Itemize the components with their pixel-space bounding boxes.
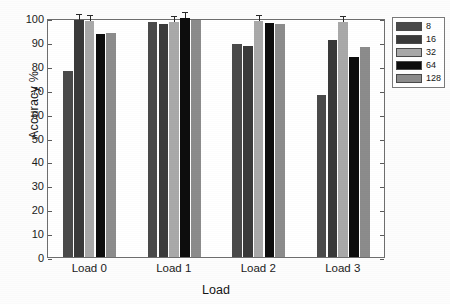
y-tick-mark (48, 187, 52, 188)
y-tick-label: 70 (10, 85, 44, 97)
y-tick-mark (380, 68, 384, 69)
x-axis-title: Load (47, 283, 385, 297)
bar (254, 21, 264, 257)
y-tick-mark (48, 116, 52, 117)
bar (328, 40, 338, 257)
y-tick-mark (48, 163, 52, 164)
bar (74, 20, 84, 257)
error-bar-cap (340, 16, 346, 17)
bar (180, 18, 190, 257)
y-tick-mark (380, 116, 384, 117)
y-tick-label: 60 (10, 109, 44, 121)
legend-item[interactable]: 8 (396, 21, 441, 32)
legend[interactable]: 8163264128 (392, 17, 445, 88)
y-tick-mark (380, 20, 384, 21)
legend-label: 32 (426, 48, 436, 57)
legend-swatch (396, 61, 422, 70)
y-tick-mark (48, 211, 52, 212)
y-tick-mark (48, 44, 52, 45)
bar (106, 33, 116, 257)
error-bar-stem (174, 17, 175, 22)
y-tick-mark (48, 259, 52, 260)
error-bar-stem (79, 15, 80, 20)
bar (148, 22, 158, 257)
y-tick-label: 0 (10, 252, 44, 264)
error-bar-stem (90, 16, 91, 21)
legend-label: 128 (426, 74, 441, 83)
bar (191, 20, 201, 257)
y-tick-mark (48, 235, 52, 236)
error-bar-cap (87, 15, 93, 16)
error-bar-stem (185, 13, 186, 18)
bar (349, 57, 359, 257)
y-tick-mark (48, 92, 52, 93)
bar (360, 47, 370, 257)
legend-item[interactable]: 32 (396, 47, 441, 58)
bar (63, 71, 73, 257)
y-tick-label: 90 (10, 37, 44, 49)
legend-label: 16 (426, 35, 436, 44)
y-tick-mark (380, 187, 384, 188)
x-tick-label: Load 3 (298, 262, 388, 274)
bar (96, 34, 106, 257)
error-bar-cap (76, 14, 82, 15)
y-tick-label: 10 (10, 228, 44, 240)
legend-swatch (396, 74, 422, 83)
bar (232, 44, 242, 257)
legend-swatch (396, 22, 422, 31)
legend-item[interactable]: 64 (396, 60, 441, 71)
error-bar-cap (171, 16, 177, 17)
y-tick-mark (380, 140, 384, 141)
figure: Accuracy % 0102030405060708090100 Load 0… (0, 0, 450, 304)
y-tick-mark (48, 20, 52, 21)
bar (85, 21, 95, 257)
legend-label: 64 (426, 61, 436, 70)
y-tick-mark (380, 235, 384, 236)
bar (169, 22, 179, 257)
error-bar-stem (259, 16, 260, 21)
y-tick-label: 40 (10, 156, 44, 168)
y-tick-label: 30 (10, 180, 44, 192)
legend-swatch (396, 35, 422, 44)
x-tick-label: Load 2 (213, 262, 303, 274)
y-tick-label: 20 (10, 204, 44, 216)
y-tick-label: 50 (10, 133, 44, 145)
bar (338, 22, 348, 257)
plot-area (47, 19, 385, 258)
x-tick-label: Load 1 (129, 262, 219, 274)
y-tick-mark (380, 259, 384, 260)
bar (275, 24, 285, 258)
bar (243, 46, 253, 258)
legend-item[interactable]: 128 (396, 73, 441, 84)
y-tick-label: 100 (10, 13, 44, 25)
y-tick-label: 80 (10, 61, 44, 73)
y-tick-mark (380, 92, 384, 93)
legend-swatch (396, 48, 422, 57)
bar (159, 24, 169, 257)
legend-label: 8 (426, 22, 431, 31)
y-tick-mark (48, 140, 52, 141)
y-tick-mark (380, 211, 384, 212)
bar (317, 95, 327, 257)
bar (265, 23, 275, 257)
error-bar-cap (182, 12, 188, 13)
y-tick-mark (380, 44, 384, 45)
legend-item[interactable]: 16 (396, 34, 441, 45)
error-bar-cap (256, 15, 262, 16)
y-tick-mark (48, 68, 52, 69)
y-tick-mark (380, 163, 384, 164)
error-bar-stem (343, 17, 344, 22)
x-tick-label: Load 0 (44, 262, 134, 274)
